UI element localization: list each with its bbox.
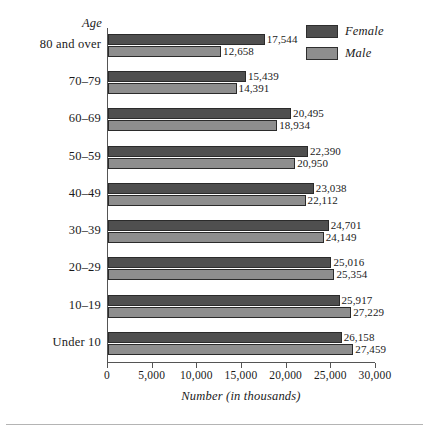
bar-value-label: 25,917	[342, 294, 373, 306]
bar-male: 27,459	[108, 344, 353, 355]
category-label: 20–29	[0, 260, 101, 275]
bar-female: 25,917	[108, 295, 340, 306]
bar-value-label: 24,149	[326, 231, 357, 243]
bar-female: 22,390	[108, 146, 308, 157]
bar-value-label: 12,658	[223, 45, 254, 57]
bar-male: 14,391	[108, 83, 237, 94]
bar-group: 20–2925,01625,354	[107, 257, 375, 283]
y-axis-title: Age	[0, 16, 102, 31]
bar-male: 12,658	[108, 46, 221, 57]
bottom-divider	[6, 424, 423, 425]
bar-value-label: 26,158	[344, 331, 375, 343]
x-tick-label: 20,000	[269, 369, 302, 381]
bar-male: 25,354	[108, 269, 334, 280]
bar-female: 26,158	[108, 332, 342, 343]
bar-group: Under 1026,15827,459	[107, 332, 375, 358]
x-tick	[375, 363, 376, 368]
category-label: 30–39	[0, 223, 101, 238]
x-tick	[196, 363, 197, 368]
bar-value-label: 22,112	[308, 194, 338, 206]
x-tick	[152, 363, 153, 368]
x-axis-tick-labels: 05,00010,00015,00020,00025,00030,000	[107, 369, 375, 385]
bar-group: 50–5922,39020,950	[107, 146, 375, 172]
bar-value-label: 25,354	[336, 268, 367, 280]
bar-male: 24,149	[108, 232, 324, 243]
bar-male: 18,934	[108, 120, 277, 131]
bar-female: 20,495	[108, 108, 291, 119]
bar-value-label: 20,495	[293, 107, 324, 119]
bar-value-label: 17,544	[267, 33, 298, 45]
bar-female: 23,038	[108, 183, 314, 194]
bar-value-label: 27,459	[355, 343, 386, 355]
bar-group: 40–4923,03822,112	[107, 183, 375, 209]
bar-value-label: 22,390	[310, 145, 341, 157]
bar-chart-figure: Age FemaleMale 80 and over17,54412,65870…	[0, 0, 429, 439]
bar-group: 10–1925,91727,229	[107, 295, 375, 321]
x-tick-label: 15,000	[225, 369, 258, 381]
bar-value-label: 23,038	[316, 182, 347, 194]
bar-male: 22,112	[108, 195, 306, 206]
category-label: 10–19	[0, 298, 101, 313]
bar-value-label: 18,934	[279, 119, 310, 131]
bar-group: 30–3924,70124,149	[107, 220, 375, 246]
bar-female: 24,701	[108, 220, 329, 231]
x-tick-label: 25,000	[314, 369, 347, 381]
bar-value-label: 20,950	[297, 157, 328, 169]
x-tick	[107, 363, 108, 368]
plot-area: 80 and over17,54412,65870–7915,43914,391…	[107, 28, 375, 363]
bar-female: 25,016	[108, 257, 331, 268]
bar-value-label: 27,229	[353, 306, 384, 318]
bar-value-label: 24,701	[331, 219, 362, 231]
x-axis-title: Number (in thousands)	[107, 389, 375, 404]
bar-male: 27,229	[108, 307, 351, 318]
category-label: 70–79	[0, 74, 101, 89]
x-tick-label: 10,000	[180, 369, 213, 381]
category-label: 50–59	[0, 149, 101, 164]
bar-female: 17,544	[108, 34, 265, 45]
x-tick-label: 5,000	[138, 369, 165, 381]
x-tick-label: 0	[104, 369, 110, 381]
category-label: 60–69	[0, 111, 101, 126]
category-label: 40–49	[0, 186, 101, 201]
bar-value-label: 15,439	[248, 70, 279, 82]
bar-value-label: 14,391	[239, 82, 270, 94]
bar-group: 80 and over17,54412,658	[107, 34, 375, 60]
x-tick	[241, 363, 242, 368]
bar-group: 60–6920,49518,934	[107, 108, 375, 134]
bar-male: 20,950	[108, 158, 295, 169]
bar-female: 15,439	[108, 71, 246, 82]
bar-group: 70–7915,43914,391	[107, 71, 375, 97]
x-tick	[286, 363, 287, 368]
category-label: Under 10	[0, 335, 101, 350]
x-tick	[330, 363, 331, 368]
x-tick-label: 30,000	[359, 369, 392, 381]
bar-value-label: 25,016	[333, 256, 364, 268]
category-label: 80 and over	[0, 37, 101, 52]
